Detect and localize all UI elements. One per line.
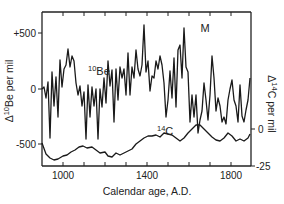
y-right-axis-title: Δ14C per mil [266, 75, 279, 132]
series-14c-line [42, 125, 250, 160]
series-label-10be: 10Be [88, 64, 110, 77]
y-left-tick-label-minus500: -500 [16, 139, 36, 150]
x-axis-title: Calendar age, A.D. [103, 185, 192, 197]
y-right-tick-label-minus25: -25 [256, 161, 271, 172]
y-right-sup: 14 [270, 82, 279, 90]
y-left-delta: Δ [3, 115, 15, 122]
series-label-10be-main: Be [96, 65, 109, 77]
series-label-14c: 14C [157, 124, 173, 137]
x-tick-label-1800: 1800 [220, 170, 243, 181]
y-left-tick-label-0: 0 [30, 84, 36, 95]
y-left-axis-title: Δ10Be per mil [2, 60, 15, 123]
series-label-10be-sup: 10 [88, 64, 96, 73]
series-label-14c-main: C [165, 125, 173, 137]
y-right-rest: C per mil [266, 91, 278, 133]
y-right-delta: Δ [266, 75, 278, 82]
x-tick-label-1400: 1400 [136, 170, 159, 181]
y-left-tick-label-500: +500 [13, 28, 36, 39]
maunder-annotation: M [200, 22, 209, 34]
y-left-rest: Be per mil [3, 60, 15, 107]
series-10be-line [42, 25, 250, 139]
plot-frame [42, 12, 251, 166]
x-tick-label-1000: 1000 [52, 170, 75, 181]
y-left-sup: 10 [2, 107, 11, 115]
chart: 1000 1400 1800 +500 0 -500 0 -25 Calenda… [0, 0, 284, 204]
y-right-tick-label-0: 0 [258, 124, 264, 135]
series-label-14c-sup: 14 [157, 124, 165, 133]
